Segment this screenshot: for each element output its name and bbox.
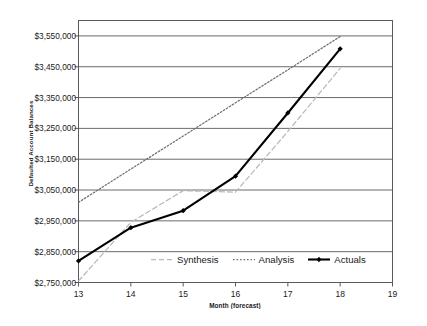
legend-swatch-synthesis-icon	[150, 255, 174, 264]
chart-legend: SynthesisAnalysisActuals	[150, 254, 366, 265]
x-axis-title: Month (forecast)	[78, 302, 392, 309]
x-axis-tick-labels: 13141516171819	[0, 0, 427, 326]
legend-swatch-analysis-icon	[232, 255, 256, 264]
legend-label: Analysis	[259, 254, 295, 265]
x-axis-tick-label: 13	[62, 289, 96, 299]
x-axis-tick-label: 16	[219, 289, 253, 299]
legend-swatch-actuals-icon	[307, 255, 331, 264]
legend-item-analysis: Analysis	[232, 254, 295, 265]
x-axis-tick-label: 17	[271, 289, 305, 299]
line-chart: Defaulted Account Balances $2,750,000$2,…	[0, 0, 427, 326]
figure-bottom-margin	[0, 309, 427, 326]
legend-label: Synthesis	[177, 254, 219, 265]
legend-label: Actuals	[334, 254, 365, 265]
x-axis-tick-label: 18	[323, 289, 357, 299]
x-axis-tick-label: 14	[114, 289, 148, 299]
legend-item-actuals: Actuals	[307, 254, 365, 265]
x-axis-tick-label: 19	[376, 289, 410, 299]
legend-item-synthesis: Synthesis	[150, 254, 219, 265]
x-axis-tick-label: 15	[166, 289, 200, 299]
